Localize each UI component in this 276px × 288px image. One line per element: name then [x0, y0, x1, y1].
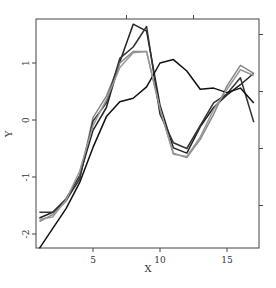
right-axis-ticks [259, 35, 263, 206]
x-axis-ticks: 51015 [90, 248, 233, 265]
data-lines [39, 24, 253, 248]
x-tick-label: 10 [154, 255, 166, 265]
data-line-series-4 [39, 60, 253, 249]
top-axis-ticks [127, 15, 194, 19]
x-tick-label: 15 [221, 255, 233, 265]
y-tick-label: -2 [21, 230, 31, 239]
y-tick-label: 0 [21, 117, 31, 123]
line-chart: 51015 -2-101 X Y [0, 0, 276, 288]
y-tick-label: -1 [21, 173, 31, 182]
y-tick-label: 1 [21, 60, 31, 66]
x-tick-label: 5 [90, 255, 96, 265]
data-line-series-2 [39, 52, 253, 222]
y-axis-label: Y [3, 130, 14, 138]
x-axis-label: X [144, 263, 152, 274]
y-axis-ticks: -2-101 [21, 60, 36, 238]
data-line-series-5 [39, 52, 253, 220]
